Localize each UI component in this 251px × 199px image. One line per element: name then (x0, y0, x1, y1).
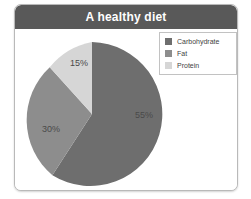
chart-title-bar: A healthy diet (15, 5, 237, 29)
pie-label-carbohydrate: 55% (135, 110, 153, 120)
legend-label-fat: Fat (177, 50, 187, 57)
plot-area: 55% 30% 15% Carbohydrate Fat Protein (15, 29, 237, 191)
legend-swatch-carbohydrate (165, 38, 172, 45)
legend-label-protein: Protein (177, 62, 199, 69)
legend-item-carbohydrate[interactable]: Carbohydrate (165, 37, 232, 46)
legend-item-fat[interactable]: Fat (165, 49, 232, 58)
legend-label-carbohydrate: Carbohydrate (177, 38, 219, 45)
legend-swatch-fat (165, 50, 172, 57)
chart-frame: A healthy diet 55% 30% 15% Carbohydrate … (14, 4, 238, 191)
pie-label-fat: 30% (42, 124, 60, 134)
chart-legend: Carbohydrate Fat Protein (159, 32, 237, 75)
pie-chart: 55% 30% 15% (16, 28, 176, 188)
page-title: A healthy diet (85, 11, 166, 23)
legend-item-protein[interactable]: Protein (165, 61, 232, 70)
legend-swatch-protein (165, 62, 172, 69)
pie-label-protein: 15% (70, 58, 88, 68)
